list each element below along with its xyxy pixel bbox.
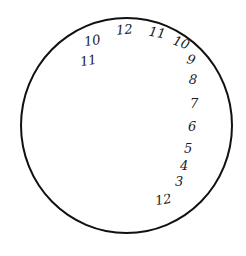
clock-circle [20,17,233,234]
clock-number: 7 [190,97,198,110]
clock-number: 11 [79,53,98,69]
clock-number: 11 [148,25,167,41]
clock-number: 5 [184,142,192,155]
clock-number: 4 [180,159,188,172]
clock-number: 3 [175,175,183,188]
clock-number: 8 [188,73,197,87]
clock-number: 12 [154,192,173,208]
clock-drawing: 10 11 12 11 10 9 8 7 6 5 4 3 12 [0,0,246,256]
clock-number: 10 [83,33,102,49]
clock-number: 12 [115,22,133,36]
clock-number: 6 [188,120,196,133]
